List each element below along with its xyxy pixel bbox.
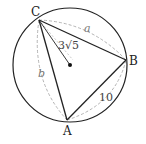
label-side-a: a [84,22,91,35]
geometry-diagram: C B A 3√5 a b 10 [0,0,146,144]
label-side-b: b [38,67,45,80]
center-dot [68,63,72,67]
label-A: A [62,124,72,138]
side-BA [67,60,126,120]
side-CB [39,20,126,60]
label-B: B [129,54,138,68]
label-side-AB: 10 [99,91,113,104]
label-radius: 3√5 [58,39,79,52]
label-C: C [31,5,40,19]
